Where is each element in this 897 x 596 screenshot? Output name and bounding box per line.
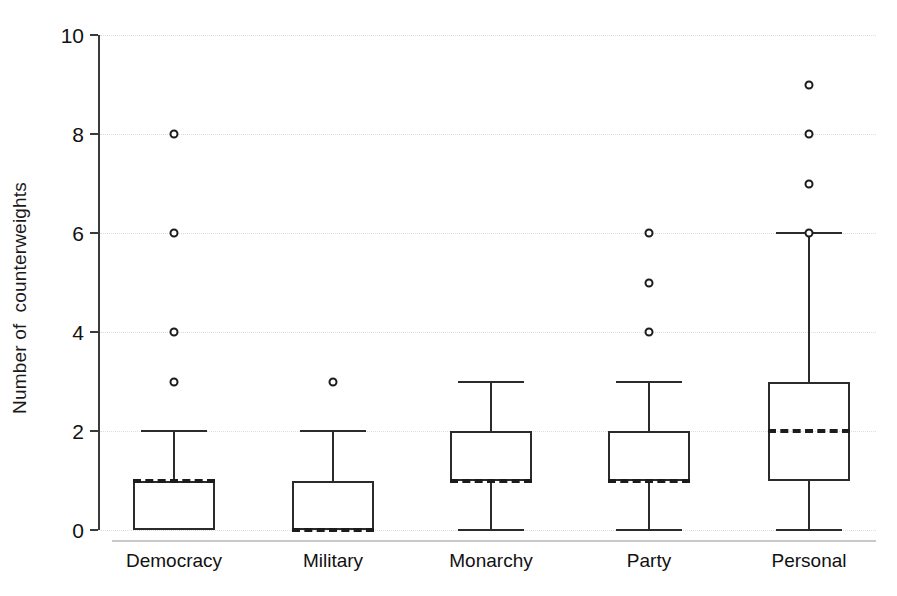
y-tick-label-2: 2 [38, 421, 84, 442]
outlier-personal-9 [805, 80, 814, 89]
outlier-democracy-6 [170, 229, 179, 238]
gridline-y-10 [100, 35, 876, 36]
whisker-lower-party [648, 481, 650, 531]
y-axis-line [98, 35, 100, 530]
whisker-lower-monarchy [490, 481, 492, 531]
y-tick-mark-6 [90, 232, 98, 234]
median-party [608, 479, 690, 483]
whisker-cap-upper-monarchy [458, 381, 524, 383]
whisker-upper-party [648, 382, 650, 432]
gridline-y-4 [100, 332, 876, 333]
whisker-upper-military [332, 431, 334, 481]
outlier-personal-6 [805, 229, 814, 238]
x-tick-label-personal: Personal [772, 551, 847, 570]
gridline-y-6 [100, 233, 876, 234]
whisker-cap-upper-party [616, 381, 682, 383]
y-tick-mark-8 [90, 133, 98, 135]
outlier-party-4 [645, 328, 654, 337]
whisker-cap-lower-monarchy [458, 529, 524, 531]
median-monarchy [450, 479, 532, 483]
gridline-y-8 [100, 134, 876, 135]
y-tick-label-8: 8 [38, 124, 84, 145]
outlier-democracy-8 [170, 130, 179, 139]
box-military [292, 481, 374, 531]
x-tick-label-military: Military [303, 551, 363, 570]
outlier-personal-7 [805, 179, 814, 188]
y-tick-mark-10 [90, 34, 98, 36]
outlier-party-5 [645, 278, 654, 287]
whisker-cap-lower-personal [776, 529, 842, 531]
y-axis-title: Number of counterweights [0, 0, 40, 596]
outlier-military-3 [329, 377, 338, 386]
x-tick-label-monarchy: Monarchy [449, 551, 532, 570]
whisker-upper-monarchy [490, 382, 492, 432]
x-tick-label-party: Party [627, 551, 671, 570]
whisker-cap-upper-democracy [141, 430, 207, 432]
box-party [608, 431, 690, 481]
boxplot-figure: Number of counterweights 0246810Democrac… [0, 0, 897, 596]
y-tick-label-4: 4 [38, 322, 84, 343]
y-tick-mark-0 [90, 529, 98, 531]
y-tick-label-10: 10 [38, 25, 84, 46]
x-tick-label-democracy: Democracy [126, 551, 222, 570]
y-tick-mark-2 [90, 430, 98, 432]
box-democracy [133, 481, 215, 531]
median-personal [768, 429, 850, 433]
box-monarchy [450, 431, 532, 481]
outlier-democracy-3 [170, 377, 179, 386]
whisker-lower-personal [808, 481, 810, 531]
median-military [292, 528, 374, 532]
y-tick-label-0: 0 [38, 520, 84, 541]
y-tick-mark-4 [90, 331, 98, 333]
whisker-cap-lower-party [616, 529, 682, 531]
outlier-personal-8 [805, 130, 814, 139]
whisker-upper-personal [808, 233, 810, 382]
x-axis-line [112, 540, 876, 542]
outlier-party-6 [645, 229, 654, 238]
whisker-cap-upper-military [300, 430, 366, 432]
outlier-democracy-4 [170, 328, 179, 337]
median-democracy [133, 479, 215, 483]
y-tick-label-6: 6 [38, 223, 84, 244]
whisker-upper-democracy [173, 431, 175, 481]
